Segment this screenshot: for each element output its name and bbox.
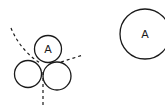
dashed-line-right [61,55,83,62]
dashed-curve-left [11,28,40,63]
bottom-right-circle [43,62,71,90]
isolated-circle-group: A [120,9,165,59]
top-circle-label: A [44,43,52,56]
bottom-left-circle [15,61,42,88]
circle-cluster: A [15,36,72,91]
isolated-circle-label: A [141,28,149,41]
diagram-canvas: A A [0,0,165,108]
